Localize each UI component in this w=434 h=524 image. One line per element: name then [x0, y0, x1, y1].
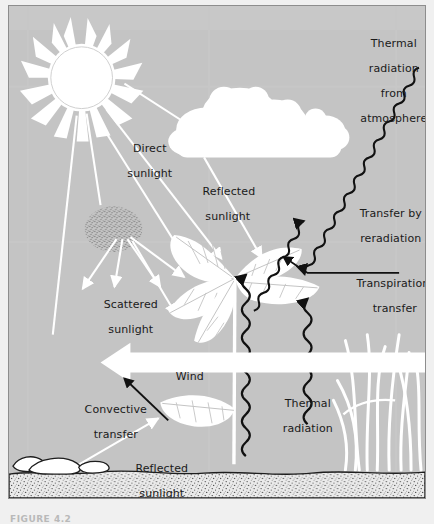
- wind-arrow[interactable]: [101, 343, 425, 383]
- cloud-icon: [168, 87, 349, 158]
- rocks-icon: [13, 457, 109, 474]
- flow-convective-transfer: [124, 378, 168, 420]
- sun-icon: [20, 17, 143, 141]
- leaf-lower-icon: [160, 395, 234, 427]
- plant-upper-icon: [168, 235, 319, 464]
- diagram-canvas: [9, 6, 425, 498]
- flow-transpirational-transfer: [284, 257, 399, 273]
- figure-caption: FIGURE 4.2: [10, 514, 71, 524]
- flow-scattered-sunlight: [83, 237, 185, 315]
- ground-soil-band: [9, 471, 425, 498]
- figure-container: Thermal radiation from atmosphere Direct…: [0, 0, 434, 524]
- diagram-panel: Thermal radiation from atmosphere Direct…: [8, 5, 426, 499]
- flow-reflected-sunlight-lower: [73, 418, 159, 468]
